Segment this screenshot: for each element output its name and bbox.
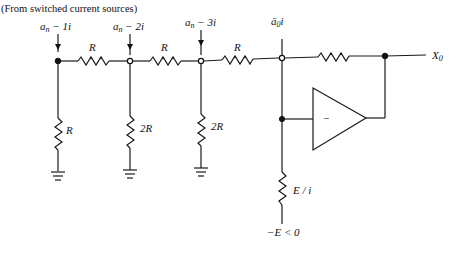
arrow-down-icon xyxy=(55,44,61,50)
caption: (From switched current sources) xyxy=(1,3,138,15)
shunt-leg-2: 2R xyxy=(123,64,153,178)
shunt-leg-1: R xyxy=(51,61,73,180)
series-resistor-label-3: R xyxy=(233,41,241,53)
node-open-3 xyxy=(198,58,203,63)
feedback-resistor-icon xyxy=(318,53,349,61)
shunt-resistor-label-1: R xyxy=(65,124,73,136)
summing-leg: E / i −E < 0 xyxy=(267,61,313,238)
resistor-icon xyxy=(55,118,62,150)
supply-label: −E < 0 xyxy=(267,226,300,238)
op-amp-inverting-sign: − xyxy=(323,112,329,124)
resistor-icon xyxy=(78,57,109,65)
node-open-summing xyxy=(279,55,284,60)
input-source-3: an − 3i xyxy=(185,16,216,55)
dac-ladder-circuit-diagram: (From switched current sources) an − 1i … xyxy=(0,0,462,254)
input-source-2: an − 2i xyxy=(113,20,144,55)
input-label-3: an − 3i xyxy=(185,16,216,30)
shunt-resistor-label-3: 2R xyxy=(211,120,224,132)
resistor-icon xyxy=(198,114,205,146)
op-amp: − xyxy=(313,56,385,150)
series-resistor-label-2: R xyxy=(160,41,168,53)
node-filled-1 xyxy=(55,58,61,64)
arrow-down-icon xyxy=(198,40,204,46)
bias-resistor-icon xyxy=(279,172,286,205)
input-label-2: an − 2i xyxy=(113,20,144,34)
output-label: X0 xyxy=(431,49,443,63)
node-filled-output xyxy=(382,53,388,59)
resistor-icon xyxy=(150,57,181,65)
junction-dot xyxy=(279,116,284,121)
input-source-1: an − 1i xyxy=(40,20,71,52)
resistor-icon xyxy=(127,116,134,148)
node-open-2 xyxy=(127,58,132,63)
op-amp-triangle-icon xyxy=(313,88,366,150)
series-resistor-label-1: R xyxy=(88,41,96,53)
input-label-1: an − 1i xyxy=(40,20,71,34)
shunt-resistor-label-2: 2R xyxy=(140,122,153,134)
arrow-down-icon xyxy=(127,44,133,50)
shunt-leg-3: 2R xyxy=(194,64,224,176)
input-source-0: ā0i xyxy=(271,15,284,55)
bias-resistor-label: E / i xyxy=(292,184,311,196)
input-label-0: ā0i xyxy=(271,15,284,29)
resistor-icon xyxy=(222,56,253,64)
